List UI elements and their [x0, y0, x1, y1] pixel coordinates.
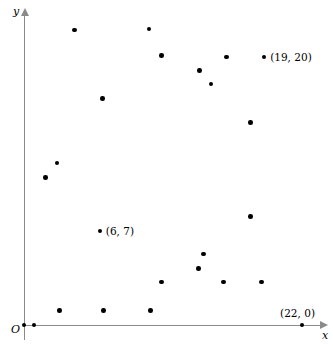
- x-axis-line: [24, 325, 322, 326]
- data-point: [98, 229, 103, 234]
- data-point: [147, 27, 152, 32]
- data-point: [300, 323, 305, 328]
- data-point: [224, 55, 229, 60]
- y-axis-arrow-icon: [21, 8, 29, 16]
- data-point: [221, 280, 226, 285]
- data-point-label: (19, 20): [270, 52, 312, 63]
- data-point-label: (22, 0): [280, 308, 315, 319]
- data-point: [101, 308, 106, 313]
- origin-label: O: [11, 324, 20, 335]
- data-point: [100, 96, 105, 101]
- x-axis-arrow-icon: [320, 321, 328, 329]
- data-point: [159, 280, 164, 285]
- data-point: [55, 161, 60, 166]
- y-axis-label: y: [13, 6, 19, 17]
- data-point: [201, 252, 206, 257]
- data-point: [196, 266, 201, 271]
- data-point: [262, 55, 267, 60]
- data-point: [72, 28, 77, 33]
- data-point: [197, 68, 202, 73]
- data-point-label: (6, 7): [106, 226, 134, 237]
- data-point: [248, 214, 253, 219]
- data-point: [248, 120, 253, 125]
- x-axis-label: x: [322, 330, 328, 341]
- data-point: [43, 175, 48, 180]
- data-point: [22, 323, 27, 328]
- data-point: [209, 82, 214, 87]
- data-point: [259, 280, 264, 285]
- scatter-plot-figure: x y O (6, 7)(19, 20)(22, 0): [0, 0, 333, 350]
- data-point: [148, 308, 153, 313]
- y-axis-line: [24, 14, 25, 340]
- data-point: [32, 323, 37, 328]
- data-point: [57, 308, 62, 313]
- data-point: [159, 53, 164, 58]
